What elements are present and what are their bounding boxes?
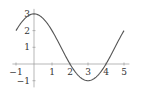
- y-tick-label: 3: [24, 9, 30, 19]
- x-tick-label: 4: [103, 67, 109, 77]
- y-tick-label: −1: [17, 76, 30, 86]
- tick-labels: −112345−1123: [9, 9, 127, 86]
- x-tick-label: 3: [85, 67, 91, 77]
- x-tick-label: 2: [67, 67, 73, 77]
- x-tick-label: 5: [121, 67, 127, 77]
- x-tick-label: 1: [49, 67, 55, 77]
- y-tick-label: 1: [24, 42, 30, 52]
- y-tick-label: 2: [24, 26, 30, 36]
- function-plot: −112345−1123: [0, 0, 142, 101]
